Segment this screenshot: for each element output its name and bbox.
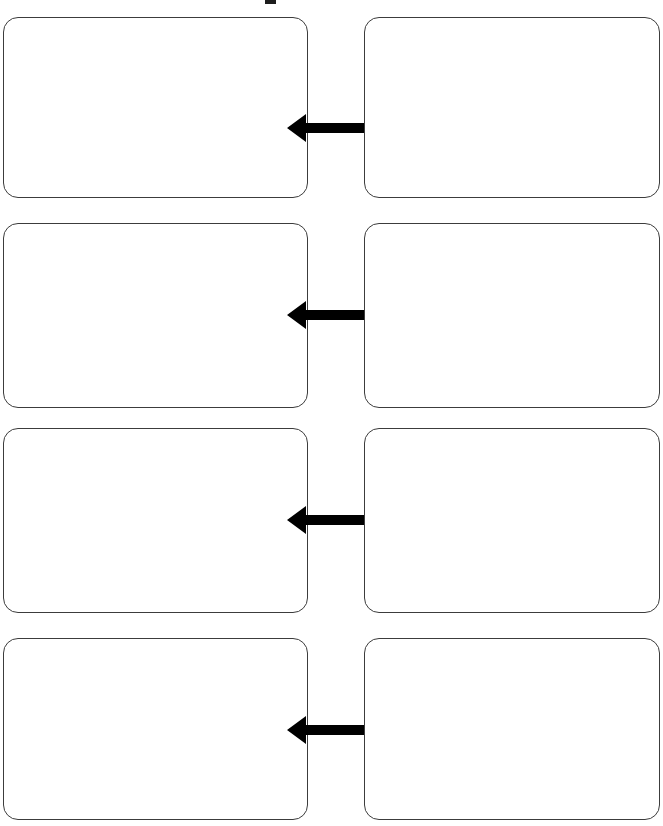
comparison-box-right[interactable] bbox=[364, 428, 660, 613]
comparison-box-left-text bbox=[4, 18, 307, 38]
comparison-box-left-text bbox=[4, 429, 307, 449]
comparison-box-left[interactable] bbox=[3, 223, 308, 408]
comparison-row bbox=[0, 223, 663, 408]
comparison-box-right-text bbox=[365, 639, 659, 659]
comparison-box-right-text bbox=[365, 429, 659, 449]
comparison-box-left-text bbox=[4, 639, 307, 659]
comparison-box-left-text bbox=[4, 224, 307, 244]
organizer-page bbox=[0, 0, 663, 826]
comparison-box-right-text bbox=[365, 224, 659, 244]
comparison-row bbox=[0, 17, 663, 198]
clipped-text-mark-icon bbox=[265, 0, 276, 4]
comparison-box-left[interactable] bbox=[3, 428, 308, 613]
comparison-box-right-text bbox=[365, 18, 659, 38]
comparison-box-left[interactable] bbox=[3, 17, 308, 198]
comparison-box-right[interactable] bbox=[364, 638, 660, 820]
comparison-row bbox=[0, 428, 663, 613]
comparison-box-left[interactable] bbox=[3, 638, 308, 820]
comparison-box-right[interactable] bbox=[364, 223, 660, 408]
comparison-row bbox=[0, 638, 663, 820]
comparison-box-right[interactable] bbox=[364, 17, 660, 198]
